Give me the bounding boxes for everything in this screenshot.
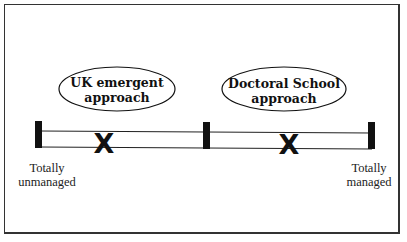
caption-line2: unmanaged [18,175,76,189]
uk-emergent-position-marker: X [94,128,115,159]
left-end-tick [35,121,42,148]
caption-line1: Totally [29,161,65,175]
callout-line2: approach [251,91,316,106]
callout-line1: UK emergent [70,75,164,90]
continuum-bar [35,121,375,149]
callout-line1: Doctoral School [228,76,340,91]
doctoral-school-position-marker: X [279,129,300,160]
doctoral-school-approach-callout: Doctoral School approach [222,67,346,111]
left-endpoint-caption: Totally unmanaged [18,161,76,189]
callout-line2: approach [84,90,149,105]
middle-tick [203,122,210,149]
caption-line2: managed [346,175,392,189]
right-endpoint-caption: Totally managed [346,161,392,189]
caption-line1: Totally [351,161,387,175]
uk-emergent-approach-callout: UK emergent approach [59,67,175,111]
right-end-tick [368,122,375,149]
continuum-diagram: UK emergent approach Doctoral School app… [0,0,407,242]
